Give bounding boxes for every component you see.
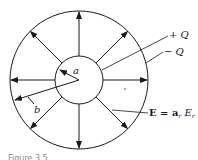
spherical-capacitor-diagram: a b + Q − Q s E = ar Er [0, 0, 198, 160]
field-eq-sub2: r [192, 112, 196, 119]
field-arrow-upper-left [31, 32, 63, 64]
label-b: b [34, 104, 40, 115]
field-equation: E = ar Er [149, 107, 196, 119]
minus-q-leader [146, 52, 163, 63]
radius-b-leader [28, 97, 34, 104]
field-eq-prefix: E = a [149, 107, 179, 118]
radius-indicators [15, 70, 79, 104]
radius-b-arrow [15, 80, 79, 100]
field-arrow-upper-right [96, 32, 128, 64]
field-eq-leader [112, 110, 148, 113]
plus-q-leader [102, 36, 168, 70]
region-mark: s [124, 86, 126, 91]
figure-caption: Figure 3.5 [8, 154, 48, 160]
label-a: a [73, 65, 79, 76]
label-plus-q: + Q [169, 29, 189, 40]
label-minus-q: − Q [164, 46, 184, 57]
field-arrow-lower-right [96, 97, 128, 129]
